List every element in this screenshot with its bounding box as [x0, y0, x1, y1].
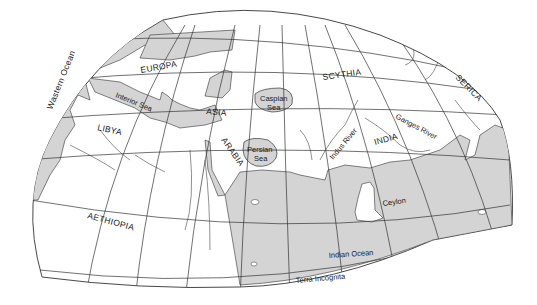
label-asia: ASIA	[206, 106, 227, 118]
label-caspian-sea-1: Caspian	[260, 94, 288, 103]
label-persian-sea-1: Persian	[247, 145, 272, 154]
label-persian-sea-2: Sea	[254, 154, 268, 163]
ptolemy-world-map: Wastern Ocean EUROPA Interior Sea ASIA L…	[0, 0, 537, 305]
island	[251, 200, 259, 205]
label-caspian-sea-2: Sea	[267, 103, 281, 112]
island	[251, 262, 257, 266]
